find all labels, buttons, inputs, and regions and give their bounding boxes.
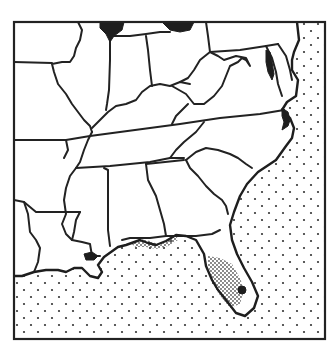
lake-okeechobee bbox=[238, 286, 246, 294]
range-map bbox=[0, 0, 332, 343]
